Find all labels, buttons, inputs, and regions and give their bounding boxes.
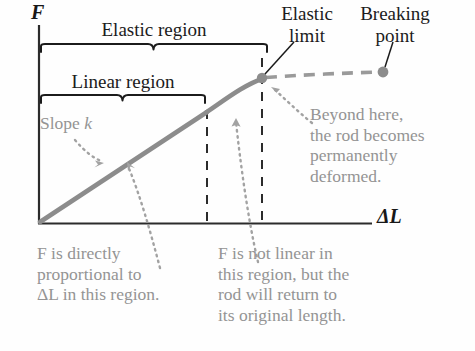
beyond-here-note: Beyond here, the rod becomes permanently… [310,104,425,187]
force-elongation-curve [40,79,262,222]
y-axis-label: F [31,1,44,25]
breaking-point-marker [378,67,389,78]
stress-strain-figure: F ΔL Elastic region Linear region Elasti… [0,0,475,351]
slope-k-symbol: k [84,113,92,133]
linear-region-label: Linear region [55,71,191,93]
x-axis-label: ΔL [377,205,402,229]
arrowhead-slope-k [94,161,104,168]
pointer-arrows-group [75,90,312,268]
elastic-region-label: Elastic region [78,19,230,41]
elastic-limit-label: Elastic limit [271,3,343,48]
pointer-nonlinear [236,122,258,262]
plastic-region-dashed-curve [266,72,380,78]
linear-region-bracket [41,95,205,103]
nonlinear-note: F is not linear in this region, but the … [218,243,349,326]
breaking-point-label: Breaking point [350,3,440,48]
pointer-slope-k [75,140,101,161]
slope-k-label: Slope k [40,113,92,134]
pointer-beyond-here [275,90,312,123]
proportional-note: F is directly proportional to ΔL in this… [37,243,159,305]
curve-nonlinear-segment [206,79,262,113]
slope-k-text: Slope [40,113,84,133]
elastic-region-bracket [41,44,267,52]
